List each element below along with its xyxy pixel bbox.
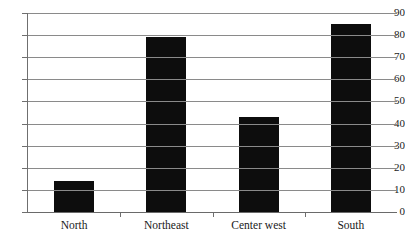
bar-chart: 0102030405060708090 NorthNortheastCenter… [0, 0, 405, 240]
gridline [28, 57, 397, 58]
plot-area [28, 13, 397, 212]
y-axis-tick-mark [22, 146, 27, 147]
y-axis-tick-mark [22, 13, 27, 14]
bar [331, 24, 371, 212]
y-axis-tick-mark [22, 212, 27, 213]
y-axis-tick-mark [22, 101, 27, 102]
y-axis-tick-mark [22, 124, 27, 125]
y-axis-tick-mark [22, 57, 27, 58]
y-axis-tick-mark [22, 35, 27, 36]
y-axis-tick-mark [22, 79, 27, 80]
gridline [28, 190, 397, 191]
x-axis-category-label: North [28, 219, 120, 232]
bar [54, 181, 94, 212]
x-axis-tick-mark [213, 213, 214, 217]
x-axis-category-label: South [305, 219, 397, 232]
x-axis-category-label: Center west [213, 219, 305, 232]
gridline [28, 79, 397, 80]
x-axis-tick-mark [120, 213, 121, 217]
gridline [28, 35, 397, 36]
gridline [28, 101, 397, 102]
gridline [28, 168, 397, 169]
y-axis-tick-mark [22, 190, 27, 191]
bar [239, 117, 279, 212]
x-axis-category-label: Northeast [120, 219, 212, 232]
bar [146, 37, 186, 212]
gridline [28, 124, 397, 125]
gridline [28, 13, 397, 14]
x-axis-tick-mark [305, 213, 306, 217]
gridline [28, 146, 397, 147]
y-axis-tick-mark [22, 168, 27, 169]
